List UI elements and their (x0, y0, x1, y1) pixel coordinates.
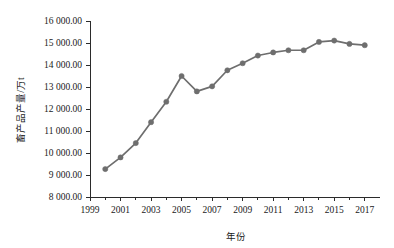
x-axis-tick-label: 2005 (172, 205, 191, 215)
data-point-marker (179, 73, 184, 78)
x-axis-tick-label: 2003 (142, 205, 161, 215)
data-point-marker (210, 84, 215, 89)
x-axis-tick-label: 2013 (294, 205, 313, 215)
data-point-marker (225, 68, 230, 73)
x-axis-tick-label: 2017 (355, 205, 374, 215)
y-axis-tick-label: 14 000.00 (44, 60, 82, 70)
x-axis-tick-label: 2001 (111, 205, 130, 215)
series-marker-group (103, 38, 368, 172)
x-axis-tick-label: 2015 (325, 205, 344, 215)
x-axis-tick-group: 1999200120032005200720092011201320152017 (81, 197, 375, 215)
y-axis-tick-label: 11 000.00 (44, 126, 82, 136)
y-axis-title: 畜产品产量/万t (15, 77, 26, 143)
chart-figure: 16 000.0015 000.0014 000.0013 000.0012 0… (0, 0, 394, 248)
x-axis-title: 年份 (226, 231, 246, 242)
y-axis-tick-label: 16 000.00 (44, 16, 82, 26)
x-axis-tick-label: 2011 (264, 205, 283, 215)
data-point-marker (286, 48, 291, 53)
data-point-marker (332, 38, 337, 43)
y-axis-tick-group: 16 000.0015 000.0014 000.0013 000.0012 0… (44, 16, 90, 202)
x-axis-tick-label: 2009 (233, 205, 252, 215)
data-point-marker (133, 141, 138, 146)
y-axis-tick-label: 8 000.00 (49, 192, 83, 202)
data-point-marker (194, 89, 199, 94)
y-axis-tick-label: 9 000.00 (49, 170, 83, 180)
line-chart-canvas: 16 000.0015 000.0014 000.0013 000.0012 0… (0, 0, 394, 248)
data-point-marker (240, 61, 245, 66)
data-point-marker (103, 166, 108, 171)
data-point-marker (347, 41, 352, 46)
x-axis-tick-label: 1999 (81, 205, 100, 215)
x-axis-tick-label: 2007 (203, 205, 222, 215)
data-point-marker (148, 120, 153, 125)
data-point-marker (271, 50, 276, 55)
data-point-marker (255, 53, 260, 58)
data-point-marker (316, 39, 321, 44)
y-axis-tick-label: 10 000.00 (44, 148, 82, 158)
y-axis-tick-label: 13 000.00 (44, 82, 82, 92)
data-point-marker (118, 155, 123, 160)
y-axis-tick-label: 12 000.00 (44, 104, 82, 114)
data-point-marker (362, 43, 367, 48)
data-point-marker (301, 48, 306, 53)
data-point-marker (164, 99, 169, 104)
y-axis-tick-label: 15 000.00 (44, 38, 82, 48)
series-line-path (105, 41, 364, 169)
